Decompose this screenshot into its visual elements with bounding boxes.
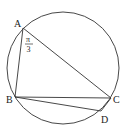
point-label-b: B — [6, 94, 13, 105]
segment-bc — [15, 97, 111, 98]
angle-denominator: 3 — [27, 45, 31, 54]
angle-label-a: π 3 — [25, 35, 33, 54]
segment-bd — [15, 97, 101, 111]
point-label-d: D — [101, 114, 108, 125]
geometry-diagram: A B C D π 3 — [0, 0, 131, 133]
point-label-c: C — [113, 94, 120, 105]
segment-cd — [101, 98, 111, 111]
segment-ac — [23, 28, 111, 98]
angle-numerator: π — [26, 35, 30, 44]
point-label-a: A — [14, 18, 22, 29]
segment-ab — [15, 28, 23, 97]
